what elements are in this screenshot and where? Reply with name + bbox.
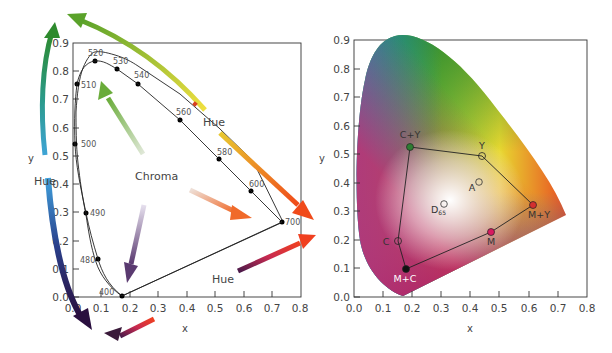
wl-510: 510 <box>81 81 96 90</box>
right-ytick-2: 0.2 <box>333 234 350 246</box>
left-xtick-7: 0.7 <box>264 302 281 314</box>
left-xtick-2: 0.2 <box>122 302 139 314</box>
right-ytick-1: 0.1 <box>333 262 350 274</box>
right-xtick-7: 0.7 <box>550 302 567 314</box>
wl-700: 700 <box>285 218 300 227</box>
right-ytick-4: 0.4 <box>333 177 350 189</box>
point-m-plus-y <box>530 202 537 209</box>
chroma-label: Chroma <box>135 170 178 183</box>
left-x-axis-label: x <box>182 323 188 334</box>
left-ytick-9: 0.9 <box>52 37 69 49</box>
label-m-plus-c: M+C <box>394 273 417 284</box>
label-y: Y <box>478 140 485 151</box>
hue-arrow-top <box>67 13 205 110</box>
point-m <box>488 229 495 236</box>
right-ytick-6: 0.6 <box>333 120 350 132</box>
figure: 400 480 490 500 510 520 530 540 560 580 … <box>0 0 612 353</box>
right-x-axis-label: x <box>467 323 473 334</box>
left-chart: 400 480 490 500 510 520 530 540 560 580 … <box>28 13 316 341</box>
right-xtick-0: 0.0 <box>346 302 363 314</box>
label-c-plus-y: C+Y <box>400 129 421 140</box>
wl-480: 480 <box>80 256 95 265</box>
left-xtick-8: 0.8 <box>292 302 309 314</box>
left-xtick-6: 0.6 <box>236 302 253 314</box>
right-y-axis-label: y <box>319 153 325 164</box>
chroma-arrow-orange <box>190 190 252 220</box>
left-y-axis-label: y <box>28 153 34 164</box>
left-ytick-7: 0.7 <box>52 93 69 105</box>
wl-560: 560 <box>176 108 191 117</box>
right-xtick-2: 0.2 <box>404 302 421 314</box>
wl-500: 500 <box>81 140 96 149</box>
left-xtick-5: 0.5 <box>207 302 224 314</box>
hue-label-top: Hue <box>203 116 225 129</box>
hue-label-left: Hue <box>34 175 56 188</box>
wl-520: 520 <box>88 49 103 58</box>
chroma-arrow-green <box>98 81 143 154</box>
color-gamut-fill <box>350 30 580 300</box>
wl-600: 600 <box>249 180 264 189</box>
right-ytick-3: 0.3 <box>333 205 350 217</box>
right-ytick-7: 0.7 <box>333 91 350 103</box>
chroma-arrow-purple <box>124 205 144 283</box>
right-ytick-8: 0.8 <box>333 63 350 75</box>
right-ytick-9: 0.9 <box>333 34 350 46</box>
label-a: A <box>469 182 476 193</box>
label-m-plus-y: M+Y <box>528 209 550 220</box>
left-ytick-6: 0.6 <box>52 122 69 134</box>
right-xtick-8: 0.8 <box>579 302 596 314</box>
right-ytick-5: 0.5 <box>333 148 350 160</box>
label-m: M <box>487 236 495 247</box>
right-xtick-3: 0.3 <box>433 302 450 314</box>
wl-530: 530 <box>113 57 128 66</box>
left-xtick-3: 0.3 <box>150 302 167 314</box>
right-xtick-4: 0.4 <box>462 302 479 314</box>
point-c-plus-y <box>407 144 414 151</box>
right-xtick-1: 0.1 <box>375 302 392 314</box>
left-xtick-4: 0.4 <box>179 302 196 314</box>
hue-label-bottom: Hue <box>212 273 234 286</box>
left-y-ticks <box>73 71 79 297</box>
label-c: C <box>383 236 390 247</box>
wl-490: 490 <box>90 209 105 218</box>
left-ytick-8: 0.8 <box>52 65 69 77</box>
left-xtick-1: 0.1 <box>93 302 110 314</box>
right-xtick-5: 0.5 <box>491 302 508 314</box>
wl-580: 580 <box>217 148 232 157</box>
right-xtick-6: 0.6 <box>521 302 538 314</box>
right-chart: C+Y Y M+Y M M+C C A D65 0.0 <box>319 30 595 334</box>
right-y-ticks <box>354 69 360 297</box>
wl-540: 540 <box>134 71 149 80</box>
left-ytick-5: 0.5 <box>52 150 69 162</box>
point-m-plus-c <box>403 266 410 273</box>
